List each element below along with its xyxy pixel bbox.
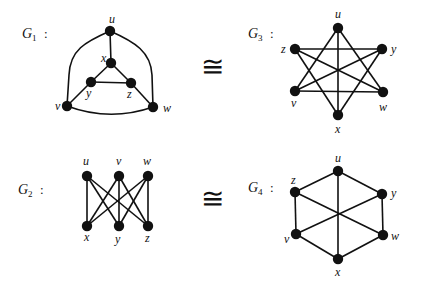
vertex-w <box>143 171 153 181</box>
vertex-v <box>291 229 301 239</box>
vertex-z <box>290 44 300 54</box>
graph-g2 <box>87 176 148 226</box>
vertex-label-v: v <box>291 96 297 110</box>
vertex-w <box>148 102 158 112</box>
edge-w-x <box>338 235 383 259</box>
vertex-x <box>333 110 343 120</box>
isomorphism-symbol: ≅ <box>201 50 224 83</box>
graph-label-colon: : <box>44 26 48 41</box>
graph-g3 <box>295 28 383 115</box>
graph-g1 <box>67 31 153 114</box>
vertex-y <box>377 189 387 199</box>
edge-v-z <box>295 192 296 234</box>
vertex-label-v: v <box>55 99 61 113</box>
vertex-y <box>377 44 387 54</box>
nodes-layer <box>62 23 388 264</box>
vertex-label-x: x <box>334 122 341 136</box>
graph-g4 <box>295 171 383 259</box>
vertex-u <box>333 23 343 33</box>
edge-x-v <box>296 234 338 259</box>
vertex-label-x: x <box>83 230 90 244</box>
vertex-label-u: u <box>109 12 115 26</box>
vertex-v <box>290 86 300 96</box>
graph-label-subscript: 3 <box>258 33 263 43</box>
vertex-label-x: x <box>334 265 341 279</box>
edge-v-w <box>67 106 153 114</box>
vertex-label-y: y <box>114 232 121 246</box>
vertex-label-v: v <box>284 232 290 246</box>
vertex-x <box>106 58 116 68</box>
vertex-label-w: w <box>379 100 387 114</box>
graph-label-colon: : <box>40 182 44 197</box>
vertex-label-z: z <box>126 87 132 101</box>
edge-y-z <box>91 82 131 83</box>
vertex-x <box>333 254 343 264</box>
vertex-w <box>378 230 388 240</box>
vertex-label-y: y <box>390 42 397 56</box>
edge-v-w <box>295 91 383 92</box>
vertex-label-w: w <box>163 101 171 115</box>
graph-label-subscript: 1 <box>32 33 37 43</box>
graph-label-g1: G <box>22 26 32 41</box>
vertex-label-u: u <box>83 154 89 168</box>
vertex-label-x: x <box>100 51 107 65</box>
vertex-w <box>378 87 388 97</box>
graph-label-colon: : <box>270 26 274 41</box>
vertex-u <box>105 26 115 36</box>
vertex-v <box>114 171 124 181</box>
vertex-label-z: z <box>290 173 296 187</box>
edge-z-u <box>295 171 338 192</box>
graph-label-colon: : <box>270 180 274 195</box>
vertex-label-y: y <box>390 186 397 200</box>
vertex-label-w: w <box>143 154 151 168</box>
vertex-label-z: z <box>280 42 286 56</box>
graph-label-g4: G <box>248 180 258 195</box>
graph-isomorphism-figure: uxyzvwG1:uzyvwxG3:uvwxyzG2:uzyvwxG4:≅≅ <box>0 0 422 286</box>
edge-u-y <box>338 171 382 194</box>
vertex-u <box>333 166 343 176</box>
isomorphism-symbol: ≅ <box>201 182 224 215</box>
vertex-label-u: u <box>335 7 341 21</box>
graph-label-g3: G <box>248 26 258 41</box>
vertex-label-v: v <box>116 154 122 168</box>
vertex-v <box>62 101 72 111</box>
graph-label-subscript: 4 <box>258 187 263 197</box>
vertex-label-w: w <box>391 229 399 243</box>
vertex-y <box>114 221 124 231</box>
vertex-z <box>143 221 153 231</box>
vertex-u <box>82 171 92 181</box>
vertex-label-z: z <box>144 231 150 245</box>
vertex-label-u: u <box>335 151 341 165</box>
vertex-label-y: y <box>85 86 92 100</box>
vertex-z <box>290 187 300 197</box>
edge-y-w <box>382 194 383 235</box>
graph-label-subscript: 2 <box>28 189 33 199</box>
labels-layer: uxyzvwG1:uzyvwxG3:uvwxyzG2:uzyvwxG4:≅≅ <box>18 7 399 279</box>
graph-label-g2: G <box>18 182 28 197</box>
